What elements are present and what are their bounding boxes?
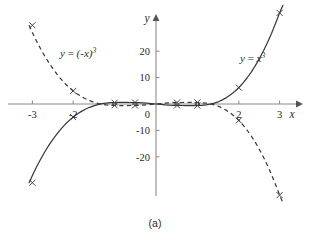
figure-caption: (a)	[149, 217, 162, 229]
svg-text:y = x3: y = x3	[239, 51, 266, 64]
x-ticklabel--3: -3	[28, 109, 37, 120]
solid-label-exponent: 3	[261, 51, 266, 60]
curve-label-dashed: y = (-x)3	[59, 46, 96, 60]
figure-container: -3 -2 2 3 20 10 0 -10 -20 x y y = x3 y =…	[0, 0, 310, 247]
y-ticklabel--20: -20	[136, 152, 150, 163]
x-ticklabel-2: 2	[236, 109, 241, 120]
marker-point	[277, 192, 283, 198]
marker-point	[70, 88, 76, 94]
y-ticklabel-20: 20	[140, 46, 151, 57]
y-ticklabel-10: 10	[140, 72, 151, 83]
y-ticklabel-0: 0	[145, 109, 150, 120]
x-ticklabel--2: -2	[69, 109, 78, 120]
function-plot: -3 -2 2 3 20 10 0 -10 -20 x y y = x3 y =…	[0, 0, 310, 247]
marker-point	[236, 85, 242, 91]
y-ticklabel--10: -10	[136, 125, 150, 136]
dashed-label-exponent: 3	[91, 46, 96, 55]
svg-text:y = (-x)3: y = (-x)3	[59, 46, 96, 60]
y-axis-label: y	[143, 12, 150, 25]
marker-point	[29, 180, 35, 186]
y-axis-arrowhead	[153, 14, 160, 21]
curve-label-solid: y = x3	[239, 51, 266, 64]
marker-point	[29, 22, 35, 28]
x-axis-label: x	[288, 108, 295, 120]
x-ticklabel-3: 3	[277, 109, 282, 120]
x-axis-arrowhead	[296, 101, 303, 108]
marker-point	[277, 10, 283, 16]
dashed-label-base: (-x)	[77, 47, 93, 60]
axes-group	[8, 14, 303, 196]
